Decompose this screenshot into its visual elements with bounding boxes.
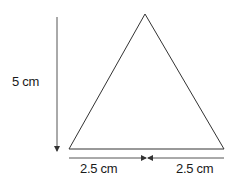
height-label: 5 cm: [12, 74, 39, 89]
right-half-base-label: 2.5 cm: [176, 161, 213, 176]
triangle: [69, 14, 224, 149]
left-half-base-label: 2.5 cm: [80, 161, 117, 176]
triangle-diagram: [0, 0, 240, 187]
